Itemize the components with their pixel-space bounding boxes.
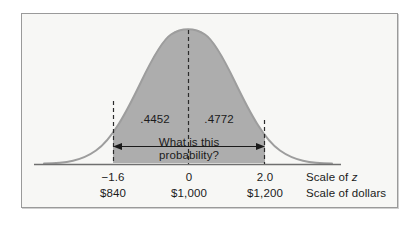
axis-name-z-prefix: Scale of (306, 171, 352, 183)
probability-label-left: .4452 (140, 113, 169, 125)
tick-label-dollars-center: $1,000 (171, 187, 207, 199)
question-line-1: What is this (159, 136, 220, 149)
tick-label-z-right: 2.0 (257, 171, 273, 183)
question-line-2: probability? (159, 149, 220, 162)
tick-label-z-left: −1.6 (101, 171, 124, 183)
question-annotation: What is this probability? (159, 136, 220, 162)
axis-name-dollars: Scale of dollars (306, 187, 386, 199)
axis-name-z: Scale of z (306, 171, 358, 183)
axis-name-z-variable: z (352, 171, 358, 183)
normal-distribution-figure: .4452 .4772 What is this probability? −1… (0, 0, 420, 230)
tick-label-dollars-left: $840 (100, 187, 126, 199)
tick-label-z-center: 0 (186, 171, 193, 183)
probability-label-right: .4772 (204, 113, 233, 125)
tick-label-dollars-right: $1,200 (247, 187, 283, 199)
